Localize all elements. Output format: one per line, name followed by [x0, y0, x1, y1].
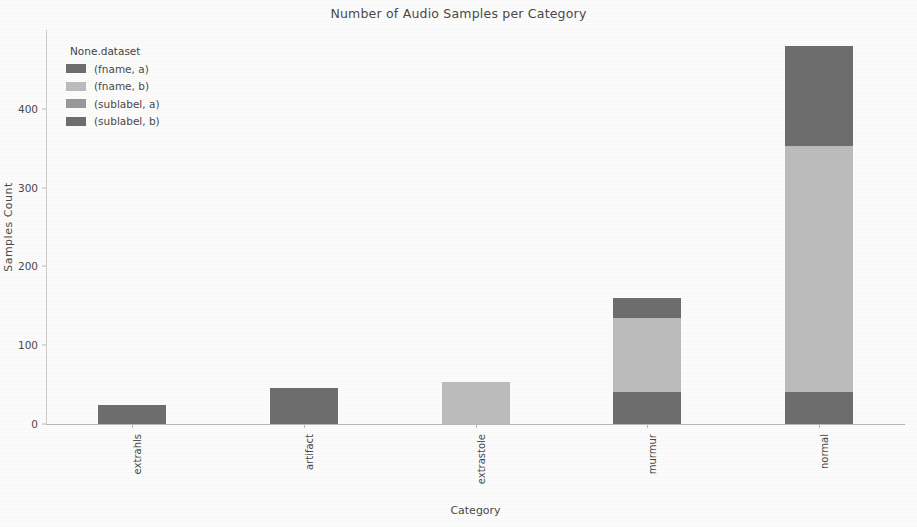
legend-entries: (fname, a)(fname, b)(sublabel, a)(sublab… [66, 64, 160, 127]
legend-label: (sublabel, a) [94, 99, 160, 110]
chart-figure: Number of Audio Samples per Category Sam… [0, 0, 917, 527]
legend-entry: (fname, b) [66, 81, 160, 92]
legend-swatch [66, 82, 86, 91]
legend-label: (sublabel, b) [94, 116, 160, 127]
legend-entry: (sublabel, a) [66, 99, 160, 110]
legend-label: (fname, b) [94, 81, 149, 92]
y-tick-mark [42, 424, 46, 425]
bar-segment [98, 405, 166, 424]
bar-segment [785, 146, 853, 393]
legend-entry: (sublabel, b) [66, 116, 160, 127]
bar-stack [613, 298, 681, 424]
bar-stack [270, 388, 338, 424]
legend-entry: (fname, a) [66, 64, 160, 75]
y-tick-mark [42, 108, 46, 109]
y-axis-label: Samples Count [2, 182, 15, 272]
legend-title: None.dataset [70, 46, 160, 57]
bar-stack [785, 46, 853, 424]
legend-swatch [66, 99, 86, 108]
y-tick-mark [42, 345, 46, 346]
bar-stack [442, 382, 510, 424]
bar-stack [98, 405, 166, 424]
legend-label: (fname, a) [94, 64, 149, 75]
chart-title: Number of Audio Samples per Category [0, 6, 917, 21]
bar-segment [613, 318, 681, 393]
bar-segment [613, 392, 681, 424]
bar-segment [785, 392, 853, 424]
bar-segment [613, 298, 681, 318]
bar-segment [270, 388, 338, 424]
y-tick-mark [42, 187, 46, 188]
legend: None.dataset (fname, a)(fname, b)(sublab… [58, 38, 168, 140]
legend-swatch [66, 117, 86, 126]
plot-area: Samples Count 0100200300400 extrahlsarti… [46, 30, 905, 424]
y-tick-mark [42, 266, 46, 267]
legend-swatch [66, 64, 86, 73]
bar-segment [442, 382, 510, 424]
bar-segment [785, 46, 853, 146]
x-axis-label: Category [46, 504, 905, 517]
